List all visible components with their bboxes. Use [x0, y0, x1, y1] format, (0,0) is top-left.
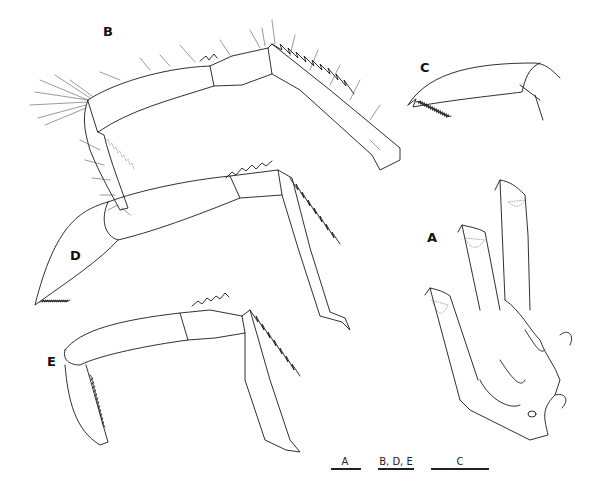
panel-label-e: E [47, 354, 56, 369]
panel-a-drawing [425, 180, 572, 440]
scale-label-bde: B, D, E [376, 456, 416, 467]
scale-line-c [431, 468, 489, 470]
line-drawing [0, 0, 611, 493]
panel-d-drawing [35, 161, 350, 330]
figure-plate: B C D E A A B, D, E C [0, 0, 611, 493]
scale-label-c: C [431, 456, 489, 467]
panel-label-a: A [427, 230, 437, 245]
panel-label-b: B [103, 24, 113, 39]
panel-label-c: C [420, 60, 430, 75]
panel-c-drawing [408, 63, 560, 120]
scale-line-bde [378, 468, 414, 470]
panel-b-drawing [30, 20, 400, 215]
panel-e-drawing [64, 293, 300, 452]
panel-label-d: D [70, 248, 81, 263]
scale-label-a: A [330, 456, 360, 467]
scale-line-a [331, 468, 361, 470]
